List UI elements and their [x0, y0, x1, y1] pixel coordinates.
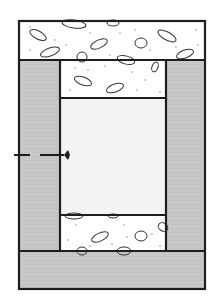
right-wall: [166, 60, 205, 251]
lower-inner-fill: [60, 215, 166, 251]
cross-section-diagram: [0, 0, 221, 308]
bottom-slab: [19, 251, 205, 289]
center-cavity: [60, 98, 166, 215]
